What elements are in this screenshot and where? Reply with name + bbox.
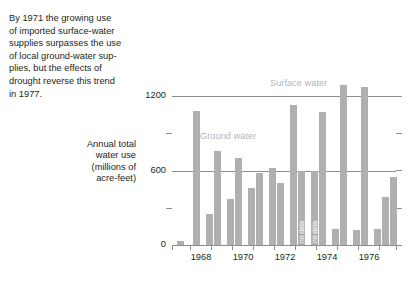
x-tick-label-1968: 1968: [180, 252, 222, 262]
bar-1976-b: [382, 197, 389, 245]
bar-1975-b: [361, 87, 368, 245]
y-tick-label-600: 600: [136, 165, 166, 175]
x-tick-label-1976: 1976: [348, 252, 390, 262]
x-tick: [232, 245, 233, 250]
x-tick: [172, 245, 173, 250]
series-label-surface: Surface water: [270, 78, 327, 88]
bar-1967-a: [193, 111, 200, 245]
y-tick-label-0: 0: [136, 239, 166, 249]
x-tick: [379, 245, 380, 250]
bar-1974-a: [332, 229, 339, 245]
bar-1972-a: [290, 105, 297, 245]
bar-1969-b: [235, 158, 242, 245]
bar-1976-a: [374, 229, 381, 245]
bar-1971-a: [269, 168, 276, 245]
y-minor-tick-right-1200: [396, 96, 402, 97]
bar-1966-a: [177, 241, 184, 245]
y-minor-tick-right-600: [396, 170, 402, 171]
bar-1968-a: [206, 214, 213, 245]
y-minor-tick-right-900: [396, 133, 402, 134]
x-tick: [396, 245, 397, 250]
x-tick: [211, 245, 212, 250]
series-label-ground: Ground water: [200, 131, 256, 141]
x-tick: [190, 245, 191, 250]
x-tick: [253, 245, 254, 250]
no-data-label: no data: [298, 221, 305, 243]
x-tick: [337, 245, 338, 250]
y-tick-label-1200: 1200: [136, 90, 166, 100]
bar-1974-b: [340, 85, 347, 245]
x-tick: [295, 245, 296, 250]
bar-1975-a: [353, 230, 360, 245]
x-tick-label-1974: 1974: [306, 252, 348, 262]
x-tick: [358, 245, 359, 250]
x-tick: [316, 245, 317, 250]
bar-1968-b: [214, 151, 221, 245]
bar-1970-b: [256, 173, 263, 245]
bar-chart: 1200 600 0 Ground water Surface water no…: [0, 0, 412, 291]
bar-1977-a: [390, 177, 397, 245]
x-tick-label-1972: 1972: [264, 252, 306, 262]
bar-1971-b: [277, 183, 284, 245]
plot-area: Ground water Surface water no datano dat…: [172, 96, 396, 245]
bar-1970-a: [248, 188, 255, 245]
x-tick-label-1970: 1970: [222, 252, 264, 262]
bar-1973-b: [319, 112, 326, 245]
x-axis-line: [172, 245, 396, 246]
x-tick: [274, 245, 275, 250]
bar-1969-a: [227, 199, 234, 245]
no-data-label: no data: [311, 221, 318, 243]
